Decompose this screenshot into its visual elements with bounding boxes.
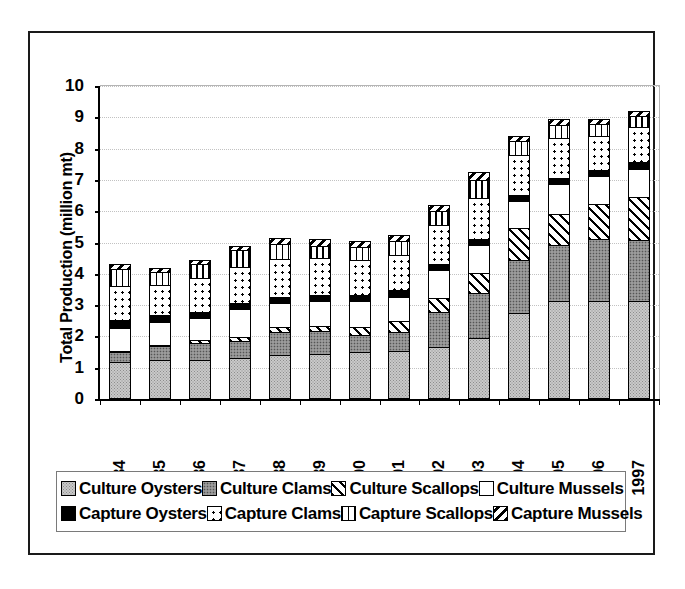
y-tick-label: 3 <box>44 295 84 315</box>
bar-segment <box>310 332 330 355</box>
legend-item[interactable]: Capture Scallops <box>341 504 493 524</box>
stacked-bar[interactable] <box>428 205 450 399</box>
x-tick-mark <box>579 399 580 405</box>
x-tick-mark <box>260 399 261 405</box>
x-tick-mark <box>619 399 620 405</box>
bar-slot <box>109 86 131 399</box>
legend-item[interactable]: Culture Clams <box>202 479 331 499</box>
bar-segment <box>549 302 569 398</box>
legend-swatch-icon <box>479 481 494 496</box>
bar-segment <box>350 296 370 302</box>
bar-segment <box>270 298 290 304</box>
legend: Culture OystersCulture ClamsCulture Scal… <box>56 471 626 532</box>
x-tick-mark <box>419 399 420 405</box>
bar-segment <box>270 304 290 329</box>
stacked-bar[interactable] <box>189 260 211 399</box>
bar-segment <box>190 313 210 319</box>
x-tick-mark <box>140 399 141 405</box>
bar-slot <box>269 86 291 399</box>
bar-segment <box>310 296 330 302</box>
stacked-bar[interactable] <box>468 172 490 399</box>
bar-slot <box>189 86 211 399</box>
bar-segment <box>509 261 529 314</box>
bar-segment <box>150 273 170 285</box>
bar-segment <box>549 185 569 215</box>
bar-segment <box>190 319 210 341</box>
legend-swatch-icon <box>202 481 217 496</box>
bar-segment <box>589 205 609 239</box>
x-tick-mark <box>380 399 381 405</box>
stacked-bar[interactable] <box>628 111 650 399</box>
bar-segment <box>310 240 330 246</box>
bar-segment <box>190 279 210 313</box>
bar-segment <box>190 261 210 266</box>
bar-segment <box>190 341 210 344</box>
legend-label: Culture Scallops <box>349 479 478 499</box>
bar-slot <box>349 86 371 399</box>
bar-segment <box>350 336 370 353</box>
bar-segment <box>350 242 370 248</box>
y-tick-label: 0 <box>44 389 84 409</box>
bar-segment <box>589 302 609 398</box>
bar-segment <box>110 352 130 354</box>
stacked-bar[interactable] <box>349 241 371 399</box>
bar-segment <box>350 353 370 398</box>
stacked-bar[interactable] <box>388 235 410 399</box>
legend-item[interactable]: Culture Mussels <box>479 479 624 499</box>
bar-segment <box>629 112 649 117</box>
stacked-bar[interactable] <box>508 136 530 399</box>
bar-segment <box>150 347 170 361</box>
bar-segment <box>310 247 330 259</box>
stacked-bar[interactable] <box>309 239 331 399</box>
bar-segment <box>429 206 449 212</box>
x-tick-mark <box>300 399 301 405</box>
bar-segment <box>350 261 370 297</box>
bar-segment <box>509 137 529 142</box>
bar-segment <box>589 120 609 125</box>
bar-segment <box>629 163 649 169</box>
bar-segment <box>469 294 489 339</box>
stacked-bar[interactable] <box>588 119 610 399</box>
stacked-bar[interactable] <box>109 264 131 399</box>
bar-slot <box>548 86 570 399</box>
bar-segment <box>230 304 250 310</box>
legend-item[interactable]: Capture Mussels <box>493 504 643 524</box>
x-tick-mark <box>180 399 181 405</box>
bar-segment <box>270 328 290 333</box>
legend-item[interactable]: Culture Oysters <box>61 479 202 499</box>
bar-segment <box>629 302 649 398</box>
plot-right-border <box>659 85 660 399</box>
legend-label: Capture Oysters <box>79 504 207 524</box>
bar-segment <box>270 356 290 398</box>
bar-segment <box>589 137 609 171</box>
legend-item[interactable]: Capture Clams <box>207 504 341 524</box>
bar-segment <box>389 291 409 297</box>
y-tick-label: 10 <box>44 76 84 96</box>
stacked-bar[interactable] <box>149 268 171 399</box>
bar-segment <box>270 245 290 260</box>
legend-item[interactable]: Culture Scallops <box>331 479 478 499</box>
legend-item[interactable]: Capture Oysters <box>61 504 207 524</box>
y-tick-label: 4 <box>44 264 84 284</box>
bar-segment <box>509 314 529 398</box>
bar-segment <box>389 256 409 292</box>
bar-segment <box>389 242 409 256</box>
legend-swatch-icon <box>207 506 222 521</box>
stacked-bar[interactable] <box>548 119 570 399</box>
bar-segment <box>270 239 290 245</box>
bar-segment <box>549 179 569 185</box>
bar-slot <box>428 86 450 399</box>
bar-segment <box>270 333 290 356</box>
stacked-bar[interactable] <box>269 238 291 399</box>
bar-segment <box>110 287 130 321</box>
bar-segment <box>629 241 649 302</box>
bar-segment <box>150 346 170 348</box>
bar-segment <box>150 286 170 317</box>
bar-slot <box>149 86 171 399</box>
bar-segment <box>230 268 250 304</box>
legend-row-culture: Culture OystersCulture ClamsCulture Scal… <box>61 476 622 501</box>
stacked-bar[interactable] <box>229 246 251 399</box>
x-tick-mark <box>220 399 221 405</box>
bar-segment <box>509 202 529 228</box>
x-tick-mark <box>659 399 660 405</box>
